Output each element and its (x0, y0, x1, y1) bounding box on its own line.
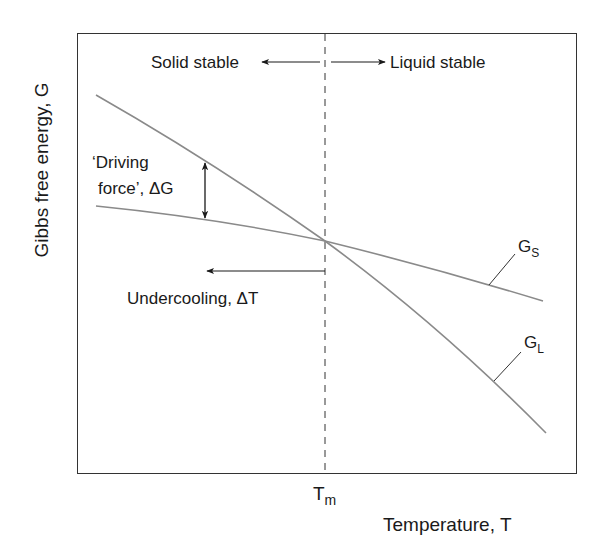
tm-tick-label: Tm (313, 483, 336, 508)
undercooling-label: Undercooling, ΔT (127, 289, 258, 308)
gl-leader-line (494, 352, 521, 381)
plot-frame (78, 34, 577, 474)
driving-force-label-line1: ‘Driving (92, 153, 149, 172)
curve-g-liquid (96, 95, 546, 433)
gs-leader-line (489, 254, 515, 285)
liquid-stable-label: Liquid stable (390, 53, 485, 72)
x-axis-title: Temperature, T (383, 514, 512, 535)
gibbs-free-energy-chart: GS GL Solid stable Liquid stable ‘Drivin… (0, 0, 598, 553)
gl-label: GL (524, 333, 544, 356)
solid-stable-label: Solid stable (151, 53, 239, 72)
curve-g-solid (96, 206, 543, 301)
y-axis-title: Gibbs free energy, G (31, 83, 52, 258)
gs-label: GS (518, 237, 539, 260)
driving-force-label-line2: force’, ΔG (98, 179, 174, 198)
